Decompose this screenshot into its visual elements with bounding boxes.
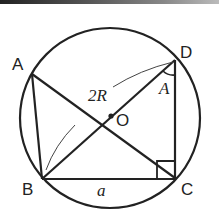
label-angle-A: A <box>158 79 170 98</box>
center-point-O <box>108 113 113 118</box>
segment-AB <box>32 74 42 179</box>
label-O: O <box>116 111 129 130</box>
label-2R: 2R <box>88 86 108 105</box>
label-D: D <box>180 43 192 62</box>
label-A: A <box>12 55 24 74</box>
label-C: C <box>181 180 193 199</box>
label-B: B <box>22 180 33 199</box>
angle-arc-D <box>163 71 175 75</box>
segment-BD-diameter <box>42 60 175 179</box>
geometry-diagram: A D B C O 2R a A <box>0 0 219 220</box>
label-a: a <box>97 181 106 200</box>
